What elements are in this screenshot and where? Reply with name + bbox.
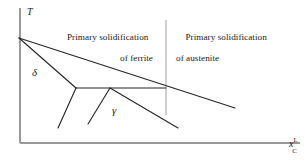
ferrite-region-label-line1: Primary solidification (67, 32, 148, 42)
austenite-region-label: Primary solidification of austenite (176, 22, 294, 84)
x-axis-label-subscript: C (292, 147, 297, 155)
austenite-region-label-line1: Primary solidification (185, 32, 266, 42)
x-axis-label: xLC (279, 127, 302, 164)
y-axis-label: T (27, 6, 33, 17)
ferrite-region-label: Primary solidification of ferrite (47, 22, 159, 84)
delta-solvus-line (58, 88, 76, 128)
phase-diagram-figure: T Primary solidification of ferrite Prim… (0, 0, 308, 164)
delta-phase-label: δ (32, 66, 37, 78)
gamma-solvus-left-line (88, 88, 110, 124)
austenite-region-label-line2: of austenite (176, 53, 294, 63)
x-axis-label-superscript: L (293, 136, 297, 144)
gamma-phase-label: γ (112, 104, 116, 116)
gamma-solidus-line (110, 88, 178, 128)
ferrite-region-label-line2: of ferrite (47, 53, 159, 63)
